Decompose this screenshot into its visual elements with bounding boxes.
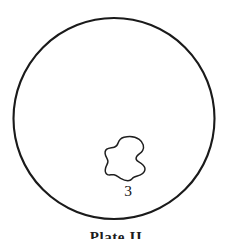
microscope-field-circle xyxy=(14,18,215,219)
specimen-illustration: 3 xyxy=(0,0,232,239)
plate-figure: 3 Plate II xyxy=(0,0,232,239)
specimen-number-label: 3 xyxy=(124,182,132,199)
specimen-blob-outline xyxy=(105,137,145,181)
plate-caption: Plate II xyxy=(0,229,232,239)
